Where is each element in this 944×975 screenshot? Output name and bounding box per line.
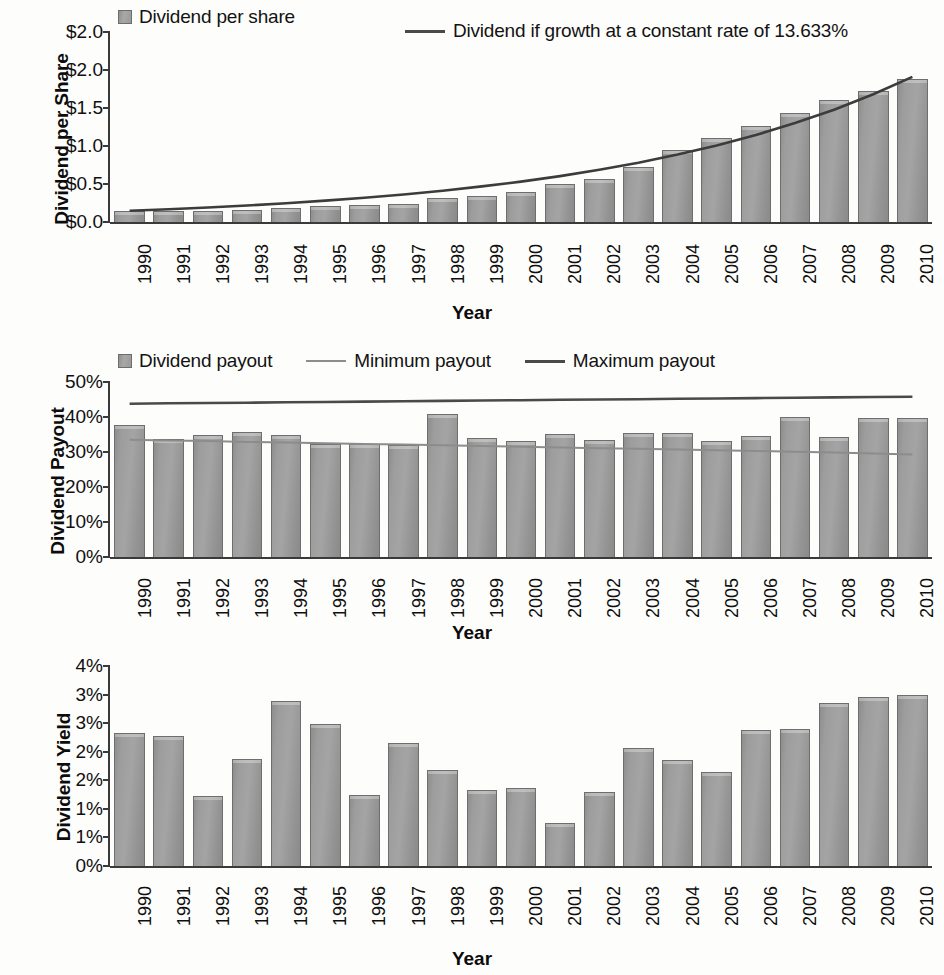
bar-1998: [427, 770, 458, 866]
bar-1998: [427, 198, 458, 222]
x-tick-label-1990: 1990: [135, 244, 156, 284]
bar-2000: [506, 441, 537, 557]
bar-2007: [780, 729, 811, 866]
x-tick-label-2001: 2001: [565, 578, 586, 618]
chart3-y-tick-mark: [103, 865, 110, 867]
x-tick-label-1993: 1993: [252, 578, 273, 618]
chart2-y-tick-label: 40%: [65, 406, 103, 428]
chart2-y-tick-label: 20%: [65, 476, 103, 498]
chart1-y-tick-label: $1.0: [66, 135, 103, 157]
x-tick-label-2003: 2003: [643, 578, 664, 618]
x-tick-label-1995: 1995: [330, 578, 351, 618]
chart2-plot-area: 50%40%30%20%10%0%: [108, 382, 930, 557]
x-tick-label-2002: 2002: [604, 578, 625, 618]
chart3-y-tick-label: 4%: [76, 655, 103, 677]
legend-entry-dividend-per-share: Dividend per share: [118, 6, 295, 28]
legend-entry-dividend-payout: Dividend payout: [118, 350, 272, 372]
bar-2006: [741, 126, 772, 222]
legend-line-dark-icon: [525, 360, 565, 363]
legend-line-light-icon: [306, 360, 346, 362]
bar-1999: [467, 790, 498, 866]
bar-1996: [349, 205, 380, 222]
bar-2004: [662, 433, 693, 557]
x-tick-label-1996: 1996: [369, 244, 390, 284]
bar-1992: [193, 796, 224, 866]
bar-2007: [780, 417, 811, 557]
x-tick-label-1995: 1995: [330, 886, 351, 926]
chart2-y-tick-mark: [103, 486, 110, 488]
x-tick-label-2001: 2001: [565, 886, 586, 926]
legend-label-maximum-payout: Maximum payout: [573, 350, 715, 372]
bar-2001: [545, 184, 576, 222]
x-tick-label-1997: 1997: [409, 578, 430, 618]
bar-1990: [114, 733, 145, 866]
chart2-y-tick-mark: [103, 381, 110, 383]
bar-1995: [310, 444, 341, 557]
bar-2002: [584, 179, 615, 222]
x-tick-label-2003: 2003: [643, 244, 664, 284]
chart1-plot-area: $2.0$2.0$1.5$1.0$0.5$0.0: [108, 32, 930, 222]
x-tick-label-2005: 2005: [722, 244, 743, 284]
chart2-y-tick-mark: [103, 451, 110, 453]
legend-swatch-icon: [118, 354, 132, 368]
x-tick-label-2006: 2006: [761, 578, 782, 618]
chart-dividend-payout: Dividend payout Minimum payout Maximum p…: [0, 330, 944, 648]
x-tick-label-2002: 2002: [604, 886, 625, 926]
bar-1995: [310, 206, 341, 222]
chart1-y-tick-mark: [103, 31, 110, 33]
x-tick-label-1991: 1991: [174, 244, 195, 284]
x-tick-label-2007: 2007: [800, 886, 821, 926]
bar-2009: [858, 91, 889, 222]
bar-2000: [506, 788, 537, 866]
x-tick-label-2006: 2006: [761, 244, 782, 284]
chart3-plot-area: 4%3%3%2%2%1%1%0%: [108, 666, 930, 866]
chart1-y-tick-mark: [103, 221, 110, 223]
chart2-legend: Dividend payout Minimum payout Maximum p…: [118, 350, 715, 372]
bar-2004: [662, 760, 693, 866]
bar-1990: [114, 425, 145, 557]
x-tick-label-1991: 1991: [174, 578, 195, 618]
bar-1992: [193, 211, 224, 222]
chart1-y-tick-label: $0.5: [66, 173, 103, 195]
bar-1992: [193, 435, 224, 557]
x-tick-label-2000: 2000: [526, 886, 547, 926]
x-tick-label-1998: 1998: [448, 578, 469, 618]
chart2-y-tick-mark: [103, 521, 110, 523]
x-tick-label-2009: 2009: [878, 886, 899, 926]
x-tick-label-1994: 1994: [291, 244, 312, 284]
bar-2010: [897, 695, 928, 866]
figure-page: Dividend per share Dividend if growth at…: [0, 0, 944, 975]
bar-1995: [310, 724, 341, 866]
x-tick-label-1990: 1990: [135, 886, 156, 926]
x-tick-label-1999: 1999: [487, 244, 508, 284]
x-tick-label-1991: 1991: [174, 886, 195, 926]
chart2-y-tick-label: 50%: [65, 371, 103, 393]
x-tick-label-2009: 2009: [878, 578, 899, 618]
chart3-plot-inner: [110, 666, 930, 866]
bar-1996: [349, 444, 380, 557]
bar-1991: [153, 736, 184, 866]
x-tick-label-2005: 2005: [722, 578, 743, 618]
bar-2008: [819, 703, 850, 866]
x-tick-label-1990: 1990: [135, 578, 156, 618]
bar-1994: [271, 208, 302, 222]
x-tick-label-2008: 2008: [839, 244, 860, 284]
x-tick-label-1994: 1994: [291, 886, 312, 926]
x-tick-label-2008: 2008: [839, 886, 860, 926]
chart3-y-tick-label: 3%: [76, 684, 103, 706]
chart1-plot-inner: [110, 32, 930, 222]
bar-2005: [701, 138, 732, 222]
chart2-y-tick-mark: [103, 556, 110, 558]
chart1-y-tick-label: $1.5: [66, 97, 103, 119]
chart2-y-tick-label: 0%: [76, 546, 103, 568]
x-tick-label-2010: 2010: [917, 886, 938, 926]
x-tick-label-1998: 1998: [448, 244, 469, 284]
chart2-bars: [110, 382, 930, 557]
chart1-y-tick-mark: [103, 107, 110, 109]
x-tick-label-1996: 1996: [369, 578, 390, 618]
bar-1991: [153, 439, 184, 557]
legend-entry-maximum-payout: Maximum payout: [525, 350, 715, 372]
x-tick-label-2004: 2004: [683, 578, 704, 618]
chart3-y-tick-mark: [103, 836, 110, 838]
bar-2000: [506, 192, 537, 222]
